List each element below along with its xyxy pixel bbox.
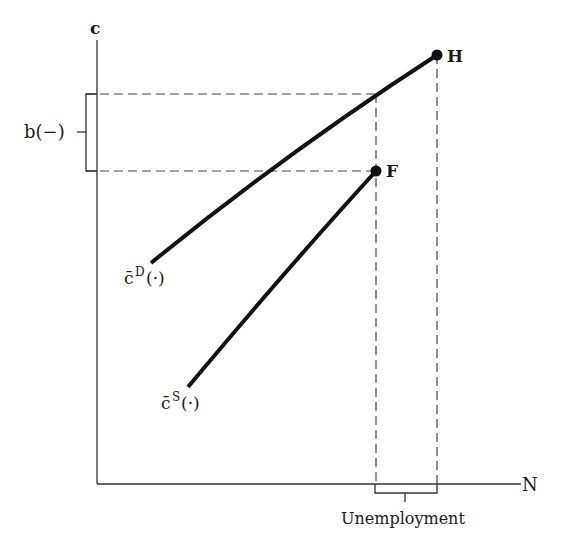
point-h-marker [432, 50, 443, 61]
demand-label-tail: (·) [146, 268, 165, 288]
supply-curve [188, 171, 376, 387]
x-axis-label: N [522, 474, 538, 495]
diagram-canvas: c N b(−) H F c̄ D (·) c̄ S (·) Unemploym… [0, 0, 570, 551]
unemployment-label: Unemployment [341, 509, 465, 528]
demand-curve [151, 55, 437, 263]
point-h-label: H [447, 46, 463, 66]
supply-label-tail: (·) [181, 393, 200, 413]
point-f-label: F [386, 161, 398, 181]
y-axis-label: c [90, 18, 100, 38]
demand-label-base: c̄ [124, 268, 134, 288]
demand-label-sup: D [135, 265, 145, 279]
demand-curve-label: c̄ D (·) [124, 265, 165, 288]
supply-label-sup: S [172, 390, 180, 404]
b-bracket [86, 94, 97, 171]
b-bracket-label: b(−) [24, 121, 65, 142]
supply-label-base: c̄ [161, 393, 171, 413]
unemployment-bracket [375, 484, 437, 493]
supply-curve-label: c̄ S (·) [161, 390, 200, 413]
point-f-marker [371, 166, 382, 177]
